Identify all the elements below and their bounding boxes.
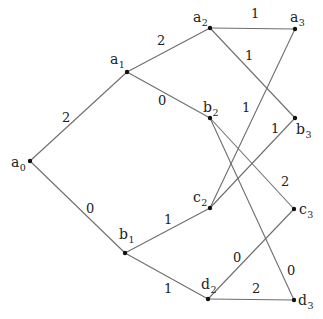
node-label-letter: a <box>290 9 298 25</box>
edge-weight-a1-a2: 2 <box>157 33 165 48</box>
edge-a2-a3 <box>210 28 295 29</box>
edges-layer <box>30 28 295 300</box>
edge-weight-b2-c3: 2 <box>281 174 289 189</box>
node-label-letter: b <box>119 226 128 242</box>
edge-a2-b3 <box>210 28 295 118</box>
edge-weight-c2-a3: 1 <box>242 100 250 115</box>
node-c2 <box>208 206 212 210</box>
node-label-a2: a2 <box>193 9 208 28</box>
node-d3 <box>292 298 296 302</box>
edge-a0-b1 <box>30 161 125 253</box>
node-label-subscript: 2 <box>210 284 216 295</box>
edge-weights-layer: 20201111201102 <box>62 6 295 296</box>
node-label-letter: d <box>201 276 210 292</box>
edge-weight-b1-c2: 1 <box>164 212 172 227</box>
node-label-c3: c3 <box>299 201 313 220</box>
edge-a1-a2 <box>127 28 210 72</box>
node-a2 <box>208 26 212 30</box>
node-label-c2: c2 <box>193 189 207 208</box>
edge-a1-b2 <box>127 72 210 118</box>
edge-weight-a0-b1: 0 <box>86 201 94 216</box>
node-label-letter: a <box>110 51 118 67</box>
node-label-subscript: 3 <box>299 17 305 28</box>
edge-weight-d2-d3: 2 <box>252 281 260 296</box>
edge-d2-d3 <box>208 299 294 300</box>
edge-weight-b2-d3: 0 <box>287 263 295 278</box>
edge-d2-c3 <box>208 209 294 299</box>
node-a3 <box>293 27 297 31</box>
node-label-letter: c <box>299 201 307 217</box>
node-label-b3: b3 <box>296 121 312 140</box>
node-a1 <box>125 70 129 74</box>
node-label-letter: b <box>296 121 305 137</box>
node-label-d2: d2 <box>201 276 217 295</box>
node-b1 <box>123 251 127 255</box>
node-label-subscript: 1 <box>119 59 125 70</box>
node-label-letter: a <box>193 9 201 25</box>
node-label-subscript: 0 <box>20 162 26 173</box>
node-label-subscript: 3 <box>307 209 313 220</box>
node-b3 <box>293 116 297 120</box>
node-label-b1: b1 <box>119 226 135 245</box>
node-d2 <box>206 297 210 301</box>
node-labels-layer: a0a1a2a3b1b2b3c2c3d2d3 <box>11 9 314 311</box>
edge-weight-b1-d2: 1 <box>164 281 172 296</box>
edge-weight-c2-b3: 1 <box>271 121 279 136</box>
node-label-letter: d <box>298 292 307 308</box>
edge-weight-a2-b3: 1 <box>245 48 253 63</box>
node-label-subscript: 3 <box>305 129 311 140</box>
node-label-subscript: 3 <box>307 300 313 311</box>
node-a0 <box>28 159 32 163</box>
node-label-subscript: 1 <box>128 234 134 245</box>
edge-weight-a2-a3: 1 <box>251 6 259 21</box>
edge-b2-d3 <box>210 118 294 300</box>
node-label-letter: c <box>193 189 201 205</box>
node-label-subscript: 2 <box>201 197 207 208</box>
weighted-graph-diagram: 20201111201102 a0a1a2a3b1b2b3c2c3d2d3 <box>0 0 323 319</box>
node-label-letter: b <box>203 99 212 115</box>
node-label-letter: a <box>11 154 19 170</box>
edge-weight-d2-c3: 0 <box>233 250 241 265</box>
node-label-a0: a0 <box>11 154 26 173</box>
node-label-d3: d3 <box>298 292 314 311</box>
nodes-layer <box>28 26 297 302</box>
node-label-subscript: 2 <box>202 17 208 28</box>
node-c3 <box>292 207 296 211</box>
node-label-a3: a3 <box>290 9 305 28</box>
edge-weight-a0-a1: 2 <box>62 110 70 125</box>
node-label-a1: a1 <box>110 51 125 70</box>
edge-weight-a1-b2: 0 <box>158 93 166 108</box>
node-label-subscript: 2 <box>212 107 218 118</box>
edge-a0-a1 <box>30 72 127 161</box>
